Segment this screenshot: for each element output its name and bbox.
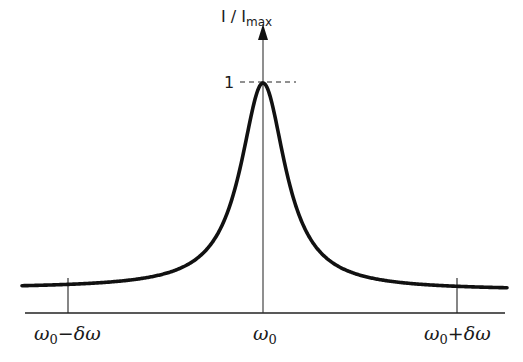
y-axis-label: I / Imax <box>221 7 272 29</box>
resonance-curve-chart: I / Imax 1 ω0−δω ω0 ω0+δω <box>0 0 523 362</box>
x-tick-label-right: ω0+δω <box>424 322 491 347</box>
y-tick-label-1: 1 <box>224 73 234 92</box>
y-axis-label-main: I / I <box>221 7 246 26</box>
y-axis-label-sub: max <box>246 15 272 29</box>
lorentzian-curve <box>22 83 507 288</box>
x-tick-label-center: ω0 <box>253 322 277 347</box>
x-tick-label-left: ω0−δω <box>34 322 101 347</box>
